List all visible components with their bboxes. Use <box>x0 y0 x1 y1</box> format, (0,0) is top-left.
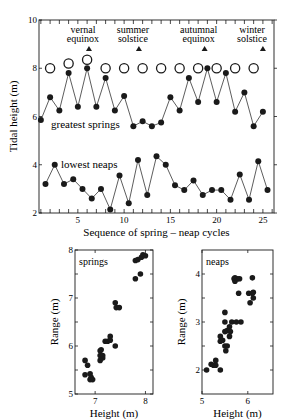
data-point <box>112 300 118 306</box>
data-point <box>116 305 122 311</box>
data-point <box>209 187 215 193</box>
data-point <box>172 182 178 188</box>
open-circle-marker <box>212 64 221 73</box>
open-circle-marker <box>138 64 147 73</box>
open-circle-marker <box>101 64 110 73</box>
triangle-marker-icon <box>202 46 208 51</box>
x-tick-label: 7 <box>93 396 98 406</box>
y-axis-label: Range (m) <box>175 298 188 345</box>
data-point <box>85 362 91 368</box>
season-annotation: vernalequinox <box>67 24 99 51</box>
data-point <box>135 157 141 163</box>
data-point <box>247 300 253 306</box>
triangle-marker-icon <box>260 46 266 51</box>
data-point <box>227 334 233 340</box>
data-point <box>241 89 247 95</box>
data-point <box>100 353 106 359</box>
springs-scatter: 567878springsRange (m)Height (m) <box>48 245 153 420</box>
data-point <box>42 181 48 187</box>
open-circle-marker <box>157 64 166 73</box>
data-point <box>195 99 201 105</box>
y-tick-label: 6 <box>69 341 74 351</box>
data-point <box>103 75 109 81</box>
data-point <box>265 187 271 193</box>
data-point <box>246 197 252 203</box>
data-point <box>84 65 90 71</box>
data-point <box>66 70 72 76</box>
open-circle-marker <box>175 64 184 73</box>
data-point <box>213 362 219 368</box>
data-point <box>154 153 160 159</box>
data-point <box>213 358 219 364</box>
data-point <box>222 310 228 316</box>
data-point <box>107 337 113 343</box>
season-annotation: autumnalequinox <box>180 24 217 51</box>
data-point <box>138 271 144 277</box>
data-point <box>251 295 257 301</box>
data-point <box>70 176 76 182</box>
svg-text:solstice: solstice <box>237 33 268 44</box>
open-circle-marker <box>194 64 203 73</box>
neaps-panel-title: neaps <box>206 256 229 267</box>
y-axis-label: Tidal height (m) <box>7 80 20 152</box>
season-annotation: wintersolstice <box>237 24 268 51</box>
neaps-scatter: 23456neapsRange (m)Height (m) <box>175 250 273 420</box>
data-point <box>191 177 197 183</box>
y-tick-label: 8 <box>33 63 38 73</box>
open-circle-marker <box>46 64 55 73</box>
data-point <box>223 70 229 76</box>
data-point <box>167 94 173 100</box>
data-point <box>107 206 113 212</box>
x-axis-label: Height (m) <box>90 407 139 420</box>
data-point <box>238 319 244 325</box>
y-axis-label: Range (m) <box>48 298 61 345</box>
y-tick-label: 2 <box>33 208 38 218</box>
data-point <box>177 107 183 113</box>
data-point <box>93 104 99 110</box>
data-point <box>260 109 266 115</box>
data-point <box>214 99 220 105</box>
data-point <box>52 162 58 168</box>
data-point <box>82 372 88 378</box>
data-point <box>130 123 136 129</box>
x-tick-label: 10 <box>120 215 130 225</box>
data-point <box>140 118 146 124</box>
y-tick-label: 4 <box>33 160 38 170</box>
open-circle-marker <box>120 64 129 73</box>
data-point <box>228 197 234 203</box>
data-point <box>126 200 132 206</box>
data-point <box>227 324 233 330</box>
data-point <box>228 329 234 335</box>
data-point <box>121 93 127 99</box>
data-point <box>116 173 122 179</box>
open-circle-marker <box>83 55 92 64</box>
open-circle-marker <box>249 64 258 73</box>
data-point <box>144 192 150 198</box>
data-point <box>98 347 104 353</box>
data-point <box>149 123 155 129</box>
y-tick-label: 5 <box>69 389 74 399</box>
data-point <box>112 343 118 349</box>
data-point <box>143 253 149 259</box>
data-point <box>200 192 206 198</box>
x-tick-label: 20 <box>212 215 222 225</box>
y-tick-label: 7 <box>69 293 74 303</box>
data-point <box>223 348 229 354</box>
svg-text:solstice: solstice <box>118 33 149 44</box>
plot-frame <box>39 20 274 213</box>
data-point <box>186 75 192 81</box>
data-point <box>181 187 187 193</box>
data-point <box>158 120 164 126</box>
y-tick-label: 4 <box>196 269 201 279</box>
data-point <box>220 337 226 343</box>
data-point <box>255 158 261 164</box>
data-point <box>204 65 210 71</box>
data-point <box>98 186 104 192</box>
y-tick-label: 6 <box>33 112 38 122</box>
svg-text:equinox: equinox <box>183 33 215 44</box>
x-tick-label: 5 <box>76 215 81 225</box>
data-point <box>237 171 243 177</box>
x-tick-label: 8 <box>143 396 148 406</box>
data-point <box>251 123 257 129</box>
data-point <box>163 162 169 168</box>
